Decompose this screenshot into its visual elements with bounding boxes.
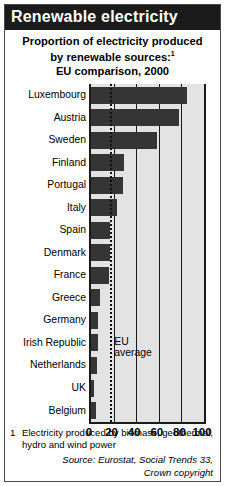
gridline <box>181 84 182 422</box>
bar-chart: LuxembourgAustriaSwedenFinlandPortugalIt… <box>5 84 220 436</box>
category-axis: LuxembourgAustriaSwedenFinlandPortugalIt… <box>5 84 89 422</box>
subtitle-line-3: EU comparison, 2000 <box>11 64 214 79</box>
bar-germany <box>91 312 98 329</box>
bar-sweden <box>91 132 157 149</box>
category-label: France <box>9 270 89 280</box>
bar-irish-republic <box>91 334 98 351</box>
gridline <box>159 84 160 422</box>
source-note: Source: Eurostat, Social Trends 33, Crow… <box>10 454 213 479</box>
category-label: Greece <box>9 293 89 303</box>
bar-portugal <box>91 177 123 194</box>
category-label: Portugal <box>9 180 89 190</box>
category-label: Germany <box>9 315 89 325</box>
subtitle-line-2-text: by renewable sources: <box>50 51 171 63</box>
source-line-1: Source: Eurostat, Social Trends 33, <box>10 454 213 466</box>
subtitle-line-1: Proportion of electricity produced <box>11 34 214 49</box>
page-title: Renewable electricity <box>5 5 220 30</box>
bar-austria <box>91 109 179 126</box>
category-label: Spain <box>9 225 89 235</box>
eu-average-label-line-1: EU <box>114 336 152 348</box>
category-label: UK <box>9 383 89 393</box>
footnote-text: Electricity produced by biomass, geother… <box>22 427 213 452</box>
bar-greece <box>91 289 100 306</box>
category-label: Denmark <box>9 248 89 258</box>
category-label: Irish Republic <box>9 338 89 348</box>
x-axis-line <box>89 422 206 424</box>
source-line-2: Crown copyright <box>10 467 213 479</box>
category-label: Netherlands <box>9 360 89 370</box>
bar-france <box>91 267 109 284</box>
bar-luxembourg <box>91 87 187 104</box>
renewable-electricity-figure: Renewable electricity Proportion of elec… <box>0 0 225 486</box>
category-label: Austria <box>9 113 89 123</box>
footnotes: 1 Electricity produced by biomass, geoth… <box>5 427 220 479</box>
subtitle-footnote-marker: 1 <box>171 50 175 57</box>
plot-area: EUaverage <box>89 84 206 422</box>
chart-subtitle: Proportion of electricity produced by re… <box>5 30 220 81</box>
category-label: Italy <box>9 203 89 213</box>
bar-uk <box>91 380 94 397</box>
category-label: Finland <box>9 158 89 168</box>
bar-spain <box>91 222 110 239</box>
figure-frame: Renewable electricity Proportion of elec… <box>4 4 221 482</box>
bar-netherlands <box>91 357 97 374</box>
footnote-row: 1 Electricity produced by biomass, geoth… <box>10 427 213 452</box>
category-label: Belgium <box>9 406 89 416</box>
bar-denmark <box>91 244 110 261</box>
category-label: Luxembourg <box>9 90 89 100</box>
eu-average-line <box>110 84 112 422</box>
eu-average-label: EUaverage <box>114 336 152 359</box>
footnote-number: 1 <box>10 427 18 452</box>
eu-average-label-line-2: average <box>114 347 152 359</box>
bar-italy <box>91 199 117 216</box>
bar-belgium <box>91 402 96 419</box>
subtitle-line-2: by renewable sources:1 <box>11 49 214 64</box>
bar-finland <box>91 154 124 171</box>
category-label: Sweden <box>9 135 89 145</box>
